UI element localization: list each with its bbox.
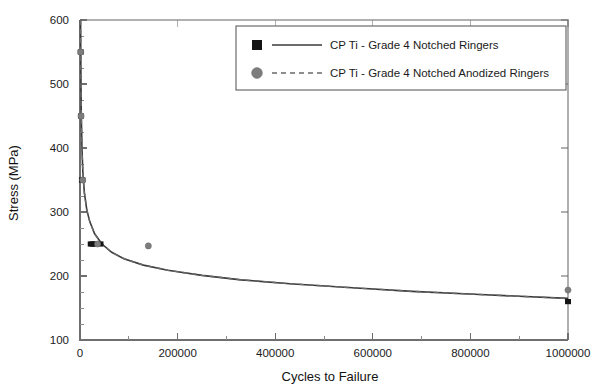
x-tick-label: 0 (77, 347, 83, 359)
x-axis-title: Cycles to Failure (282, 369, 379, 384)
x-tick-label: 800000 (451, 347, 489, 359)
chart-legend: CP Ti - Grade 4 Notched RingersCP Ti - G… (236, 26, 566, 90)
y-tick-label: 100 (50, 334, 69, 346)
legend-label: CP Ti - Grade 4 Notched Anodized Ringers (330, 67, 549, 79)
legend-box (236, 26, 566, 90)
y-tick-label: 600 (50, 14, 69, 26)
y-tick-label: 400 (50, 142, 69, 154)
y-tick-label: 300 (50, 206, 69, 218)
y-tick-label: 500 (50, 78, 69, 90)
x-tick-label: 400000 (256, 347, 294, 359)
legend-marker-circle (252, 68, 263, 79)
data-point-circle (145, 243, 151, 249)
data-point-circle (565, 287, 571, 293)
fatigue-sn-chart: 1002003004005006000200000400000600000800… (0, 0, 602, 388)
x-tick-label: 1000000 (546, 347, 591, 359)
data-point-circle (80, 177, 86, 183)
y-tick-label: 200 (50, 270, 69, 282)
data-point-circle (94, 241, 100, 247)
y-axis-title: Stress (MPa) (6, 145, 21, 221)
x-tick-label: 600000 (354, 347, 392, 359)
legend-marker-square (252, 40, 262, 50)
chart-canvas: 1002003004005006000200000400000600000800… (0, 0, 602, 388)
x-tick-label: 200000 (158, 347, 196, 359)
legend-label: CP Ti - Grade 4 Notched Ringers (330, 39, 499, 51)
data-point-circle (78, 49, 84, 55)
data-point-circle (78, 113, 84, 119)
data-point-square (565, 299, 571, 304)
